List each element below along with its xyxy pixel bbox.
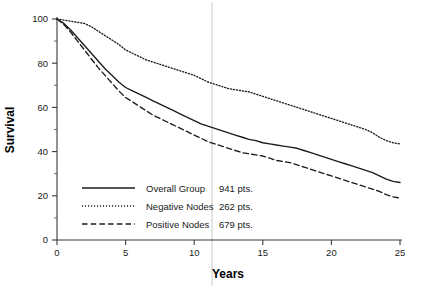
y-tick-label: 80 <box>37 58 48 69</box>
x-tick-label: 10 <box>189 247 200 258</box>
y-tick-label: 0 <box>43 234 48 245</box>
x-tick-label: 25 <box>395 247 406 258</box>
survival-chart: 0204060801000510152025 Overall Group941 … <box>0 0 428 288</box>
legend-count-overall-group: 941 pts. <box>219 183 253 194</box>
y-tick-label: 20 <box>37 190 48 201</box>
y-tick-label: 40 <box>37 146 48 157</box>
legend-label-positive-nodes: Positive Nodes <box>146 219 210 230</box>
x-tick-label: 15 <box>258 247 269 258</box>
y-axis-title: Survival <box>3 107 17 154</box>
x-tick-label: 5 <box>123 247 128 258</box>
y-tick-label: 100 <box>32 13 48 24</box>
chart-canvas: 0204060801000510152025 Overall Group941 … <box>0 0 428 288</box>
legend-count-negative-nodes: 262 pts. <box>219 201 253 212</box>
x-tick-label: 20 <box>326 247 337 258</box>
x-tick-label: 0 <box>54 247 59 258</box>
legend-label-overall-group: Overall Group <box>146 183 205 194</box>
x-axis-title: Years <box>212 267 244 281</box>
legend-label-negative-nodes: Negative Nodes <box>146 201 214 212</box>
y-tick-label: 60 <box>37 102 48 113</box>
legend-count-positive-nodes: 679 pts. <box>219 219 253 230</box>
